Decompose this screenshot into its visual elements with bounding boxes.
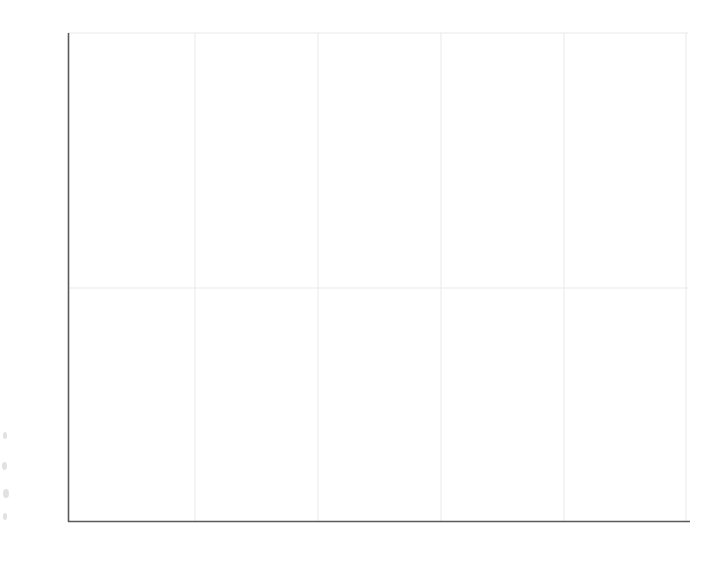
gridlines [68,33,688,522]
scan-artifact [2,462,7,470]
scan-artifact [3,513,7,520]
scan-artifact [3,432,7,439]
axes [68,33,690,522]
chart-figure [0,0,718,577]
scan-artifact [3,489,9,498]
chart-canvas [0,0,718,577]
